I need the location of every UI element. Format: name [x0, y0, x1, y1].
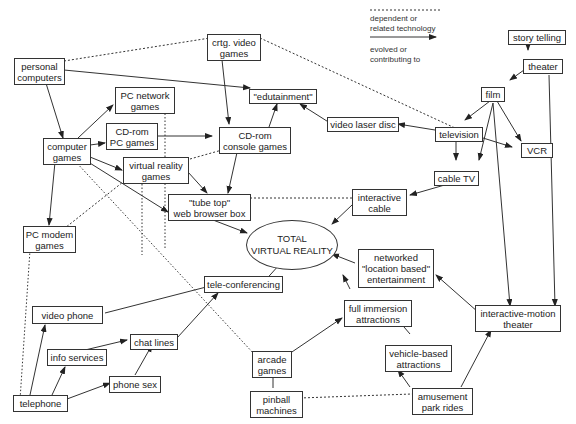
node-story-telling: story telling	[508, 30, 566, 45]
label: theater	[528, 61, 558, 72]
label: park rides	[418, 402, 468, 413]
label: games	[212, 48, 256, 59]
node-total-virtual-reality: TOTAL VIRTUAL REALITY	[246, 220, 338, 270]
center-line2: VIRTUAL REALITY	[251, 245, 333, 257]
label: games	[129, 171, 182, 182]
label: PC modem	[26, 229, 74, 240]
node-cable-tv: cable TV	[434, 171, 479, 186]
label: games	[47, 152, 87, 163]
node-tube-top: "tube top"web browser box	[168, 194, 251, 221]
label: PC network	[120, 90, 169, 101]
label: film	[486, 89, 501, 100]
legend-dashed-line2: related technology	[370, 24, 435, 34]
label: full immersion	[349, 303, 408, 314]
label: video laser disc	[330, 119, 395, 130]
node-telephone: telephone	[13, 395, 68, 412]
label: games	[257, 365, 286, 376]
label: vehicle-based	[389, 348, 448, 359]
node-interactive-motion: interactive-motiontheater	[475, 305, 561, 332]
node-cdrom-console-games: CD-romconsole games	[219, 127, 291, 154]
label: PC games	[110, 137, 154, 148]
node-pc-network-games: PC networkgames	[115, 87, 175, 114]
legend-solid-label: evolved or contributing to	[370, 45, 420, 65]
node-film: film	[481, 87, 505, 102]
node-interactive-cable: interactivecable	[352, 189, 407, 216]
node-video-laser-disc: video laser disc	[327, 117, 399, 132]
node-chat-lines: chat lines	[130, 334, 178, 350]
node-computer-games: computergames	[43, 138, 91, 165]
label: entertainment	[362, 274, 430, 285]
node-phone-sex: phone sex	[109, 376, 161, 393]
node-television: television	[435, 127, 483, 142]
label: "edutainment"	[253, 91, 312, 102]
legend-dashed-line1: dependent or	[370, 14, 435, 24]
legend-dashed-label: dependent or related technology	[370, 14, 435, 34]
label: chat lines	[134, 337, 174, 348]
node-info-services: info services	[47, 349, 107, 366]
label: amusement	[418, 391, 468, 402]
node-edutainment: "edutainment"	[249, 89, 317, 104]
label: cable TV	[438, 173, 475, 184]
label: tele-conferencing	[207, 279, 280, 290]
label: console games	[223, 141, 287, 152]
label: cable	[358, 203, 401, 214]
node-amusement-park: amusementpark rides	[412, 388, 473, 415]
label: computers	[17, 72, 61, 83]
label: machines	[256, 405, 297, 416]
label: personal	[17, 61, 61, 72]
label: phone sex	[113, 379, 157, 390]
label: CD-rom	[223, 130, 287, 141]
node-crtg-video-games: crtg. videogames	[207, 34, 261, 61]
node-personal-computers: personalcomputers	[14, 58, 65, 85]
label: video phone	[42, 310, 94, 321]
label: games	[120, 101, 169, 112]
node-virtual-reality-games: virtual realitygames	[123, 157, 189, 184]
node-tele-conferencing: tele-conferencing	[204, 276, 283, 293]
label: interactive-motion	[481, 308, 556, 319]
label: networked	[362, 252, 430, 263]
node-pinball: pinballmachines	[250, 391, 303, 418]
label: interactive	[358, 192, 401, 203]
node-vehicle-based: vehicle-basedattractions	[385, 345, 452, 372]
label: television	[439, 129, 479, 140]
node-theater: theater	[523, 59, 563, 74]
label: crtg. video	[212, 37, 256, 48]
legend-solid-line2: contributing to	[370, 55, 420, 65]
label: attractions	[349, 314, 408, 325]
node-arcade-games: arcadegames	[252, 351, 292, 378]
label: pinball	[256, 394, 297, 405]
label: computer	[47, 141, 87, 152]
legend-solid-line1: evolved or	[370, 45, 420, 55]
center-line1: TOTAL	[251, 233, 333, 245]
label: CD-rom	[110, 126, 154, 137]
label: story telling	[513, 32, 561, 43]
label: VCR	[527, 145, 547, 156]
label: "location based"	[362, 263, 430, 274]
node-pc-modem-games: PC modemgames	[23, 226, 76, 253]
label: info services	[51, 352, 104, 363]
node-video-phone: video phone	[32, 306, 103, 324]
label: virtual reality	[129, 160, 182, 171]
label: attractions	[389, 359, 448, 370]
node-networked-lbe: networked"location based"entertainment	[358, 249, 434, 288]
node-full-immersion: full immersionattractions	[344, 300, 412, 327]
label: "tube top"	[174, 197, 246, 208]
node-vcr: VCR	[521, 143, 553, 158]
node-cdrom-pc-games: CD-romPC games	[106, 123, 158, 150]
label: games	[26, 240, 74, 251]
label: theater	[481, 319, 556, 330]
label: arcade	[257, 354, 286, 365]
label: telephone	[20, 398, 62, 409]
label: web browser box	[174, 208, 246, 219]
